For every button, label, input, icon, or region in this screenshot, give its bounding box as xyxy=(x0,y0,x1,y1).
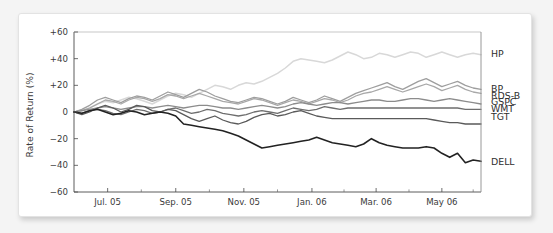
x-tick-label: Jul. 05 xyxy=(93,197,121,207)
x-tick-labels: Jul. 05Sep. 05Nov. 05Jan. 06Mar. 06May 0… xyxy=(93,197,457,207)
y-tick-label: −60 xyxy=(50,187,68,197)
y-tick-label: 0 xyxy=(63,107,68,117)
legend-label-hp: HP xyxy=(491,48,504,59)
y-tick-label: +40 xyxy=(50,54,68,64)
y-tick-label: −40 xyxy=(50,160,68,170)
legend: HPBPRDS-BGSPCWMTTGTDELL xyxy=(490,48,520,167)
legend-label-dell: DELL xyxy=(491,156,515,167)
series-group xyxy=(74,52,481,163)
y-tick-label: +60 xyxy=(50,27,68,37)
chart-card: +60+40+200−20−40−60 Jul. 05Sep. 05Nov. 0… xyxy=(18,13,532,217)
y-tick-label: −20 xyxy=(50,134,68,144)
figure-root: +60+40+200−20−40−60 Jul. 05Sep. 05Nov. 0… xyxy=(0,0,553,233)
x-tick-label: Mar. 06 xyxy=(360,197,392,207)
y-tick-labels: +60+40+200−20−40−60 xyxy=(50,27,68,197)
x-tick-label: Jan. 06 xyxy=(296,197,327,207)
line-chart: +60+40+200−20−40−60 Jul. 05Sep. 05Nov. 0… xyxy=(19,14,531,216)
x-tick-label: Nov. 05 xyxy=(228,197,261,207)
y-axis-title: Rate of Return (%) xyxy=(24,72,35,157)
x-tick-label: May 06 xyxy=(426,197,457,207)
x-tick-label: Sep. 05 xyxy=(159,197,192,207)
legend-label-tgt: TGT xyxy=(490,111,510,122)
y-tick-label: +20 xyxy=(50,80,68,90)
series-line-dell xyxy=(74,109,481,162)
series-line-hp xyxy=(74,52,481,112)
